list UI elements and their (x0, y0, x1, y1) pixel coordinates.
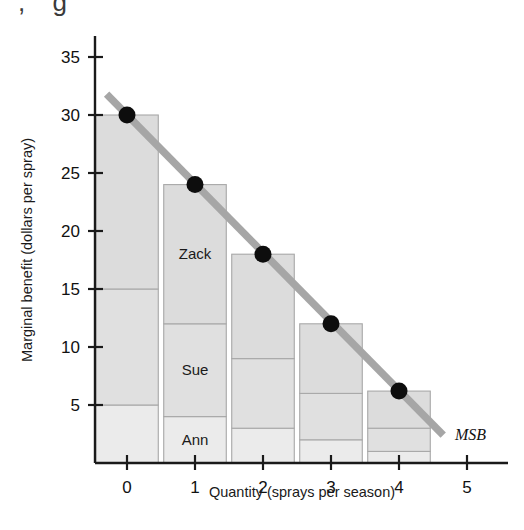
chart-canvas: 5101520253035 012345 AnnSueZack Quantity… (0, 0, 524, 530)
bar-segment-zack (300, 324, 363, 394)
y-tick-label: 15 (61, 280, 80, 299)
x-tick-label: 5 (462, 478, 471, 497)
x-axis-title: Quantity (sprays per season) (209, 484, 395, 500)
y-tick-label: 5 (71, 396, 80, 415)
bar-group (96, 115, 159, 463)
segment-label-sue: Sue (182, 361, 209, 378)
bar-group (368, 391, 431, 463)
chart-figure: , g 5101520253035 012345 AnnSueZack Quan… (0, 0, 524, 530)
y-axis-title: Marginal benefit (dollars per spray) (19, 138, 35, 362)
msb-label: MSB (454, 426, 486, 443)
bar-group (164, 185, 227, 463)
bar-segment-sue (232, 359, 295, 429)
bar-group (232, 254, 295, 463)
bars-layer (96, 115, 431, 463)
segment-label-ann: Ann (182, 431, 209, 448)
bar-segment-ann (96, 405, 159, 463)
y-tick-label: 10 (61, 338, 80, 357)
segment-label-zack: Zack (179, 245, 212, 262)
bar-segment-sue (96, 289, 159, 405)
y-tick-label: 35 (61, 48, 80, 67)
msb-data-point (255, 246, 272, 263)
msb-data-point (391, 383, 408, 400)
msb-data-point (119, 107, 136, 124)
msb-data-point (323, 315, 340, 332)
msb-data-point (187, 176, 204, 193)
y-tick-label: 30 (61, 106, 80, 125)
y-tick-label: 20 (61, 222, 80, 241)
x-tick-label: 4 (394, 478, 403, 497)
x-tick-label: 1 (190, 478, 199, 497)
bar-segment-sue (300, 393, 363, 439)
y-tick-label: 25 (61, 164, 80, 183)
x-tick-label: 0 (122, 478, 131, 497)
bar-segment-sue (368, 428, 431, 451)
